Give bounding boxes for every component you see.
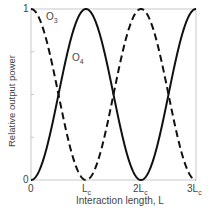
x-tick-0: 0 (28, 183, 34, 194)
chart-canvas (0, 0, 211, 208)
y-ticks (31, 52, 34, 138)
o4-label: O4 (72, 52, 84, 65)
x-tick-3lc: 3Lc (187, 183, 202, 196)
y-axis-label: Relative output power (6, 55, 17, 147)
o3-label: O3 (46, 11, 58, 24)
x-axis-label: Interaction length, L (76, 195, 164, 206)
o3-curve (31, 9, 196, 180)
y-tick-1: 1 (23, 3, 29, 14)
